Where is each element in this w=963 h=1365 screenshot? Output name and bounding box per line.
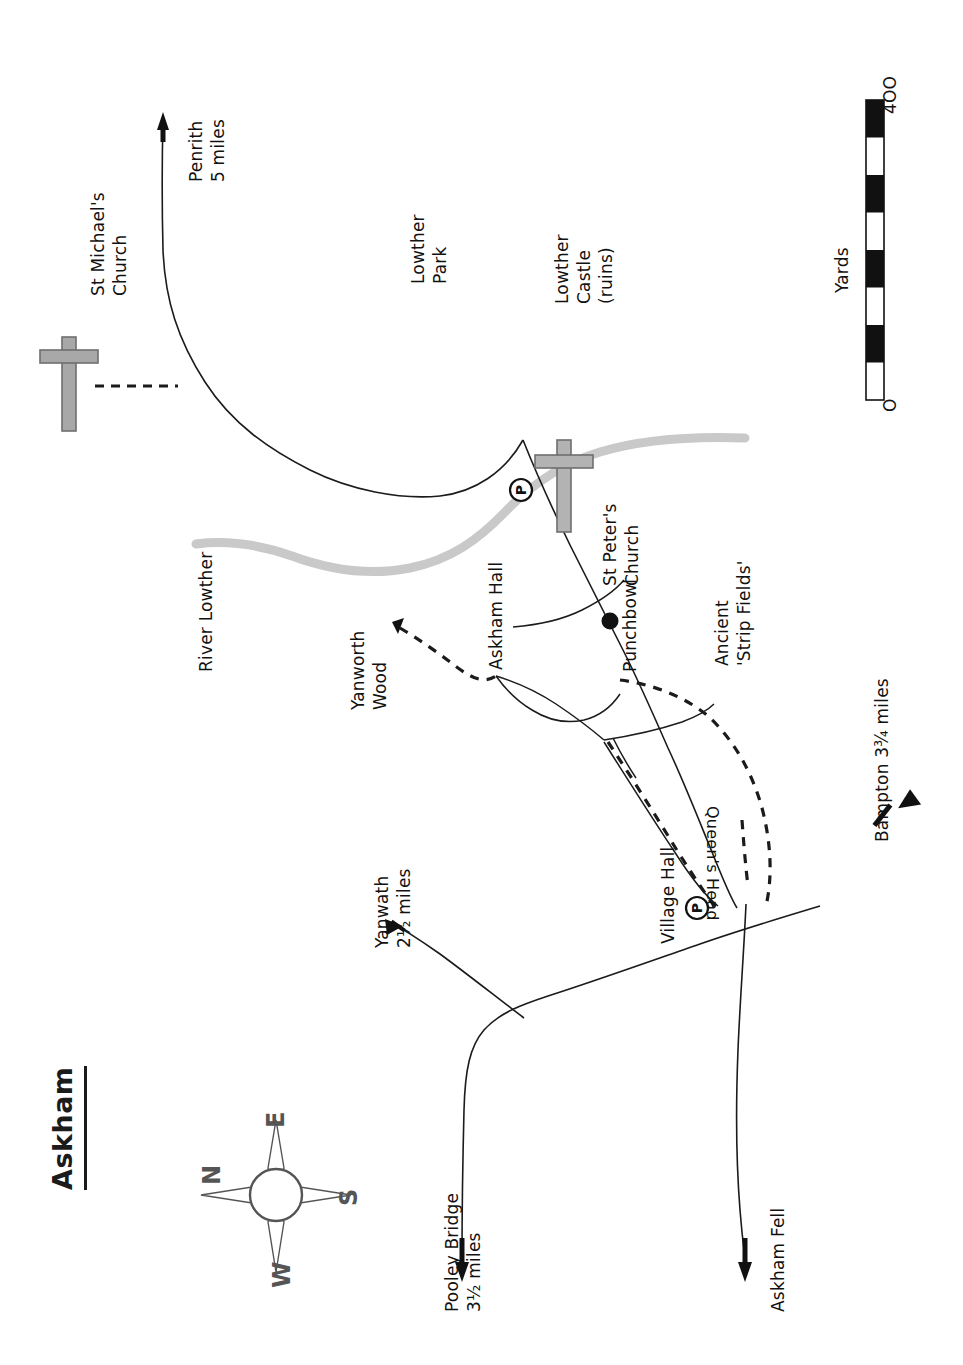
lane-cross-field [604, 704, 714, 740]
river-lowther-line [196, 438, 745, 572]
destination-penrith-label: Penrith 5 miles [186, 119, 230, 182]
road-main-through [462, 906, 820, 1258]
place-queens-head-label: Queen's Head [702, 806, 722, 921]
scale-max-label: 4OO [880, 76, 902, 114]
scale-min-label: O [880, 398, 902, 412]
compass-east-label: E [262, 1112, 290, 1128]
arrow-penrith [157, 112, 169, 142]
place-st-peters-church-label: St Peter's Church [600, 503, 644, 586]
footpath-spur [742, 820, 748, 886]
arrow-askham-fell [738, 1238, 752, 1282]
footpath-yanworth-wood [400, 628, 496, 680]
map-canvas: P P Askham N E S W Yards [0, 0, 963, 1365]
place-ancient-strip-fields-label: Ancient 'Strip Fields' [712, 560, 756, 666]
place-lowther-castle-label: Lowther Castle (ruins) [552, 234, 617, 304]
map-line-art: P P [0, 0, 963, 1365]
parking-icon-st-peters: P [510, 479, 532, 501]
compass-west-label: W [268, 1262, 296, 1288]
lane-askham-hall-west [496, 676, 604, 740]
svg-text:P: P [513, 485, 529, 495]
place-lowther-park-label: Lowther Park [408, 214, 452, 284]
place-askham-hall-label: Askham Hall [486, 562, 508, 670]
punchbowl-marker [602, 613, 619, 630]
scale-bar [866, 100, 884, 400]
destination-yanwath-label: Yanwath 2½ miles [372, 868, 416, 948]
arrow-yanworth-wood [392, 618, 404, 634]
lane-hall-branch [613, 738, 636, 778]
st-michaels-cross-icon [40, 337, 98, 431]
road-askham-fell [737, 904, 746, 1258]
place-yanworth-wood-label: Yanworth Wood [348, 630, 392, 710]
road-yanwath [404, 930, 524, 1018]
place-punchbowl-label: Punchbowl [620, 579, 642, 672]
compass-south-label: S [335, 1189, 363, 1206]
compass-north-label: N [198, 1165, 226, 1185]
destination-pooley-bridge-label: Pooley Bridge 3½ miles [442, 1193, 486, 1312]
place-st-michaels-church-label: St Michael's Church [88, 192, 132, 296]
place-village-hall-label: Village Hall [658, 846, 680, 944]
scale-unit-label: Yards [832, 247, 854, 293]
page-title: Askham [46, 1067, 87, 1191]
destination-askham-fell-label: Askham Fell [768, 1208, 790, 1312]
compass-rose [201, 1120, 351, 1272]
destination-bampton-label: Bampton 3¾ miles [872, 678, 894, 842]
place-river-lowther-label: River Lowther [196, 552, 218, 672]
